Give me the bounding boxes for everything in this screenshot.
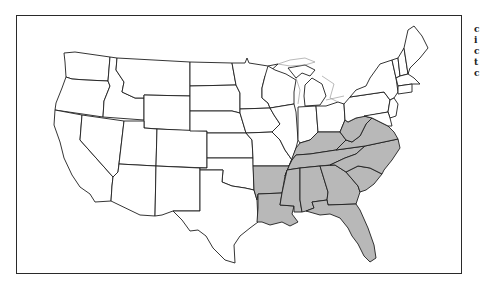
lake-superior xyxy=(278,58,315,66)
state-ohio xyxy=(316,102,345,132)
cut-off-caption: c i c t c xyxy=(474,24,481,79)
caption-line: c xyxy=(474,46,481,57)
state-oregon xyxy=(55,77,110,117)
caption-line: t xyxy=(474,57,481,68)
state-connecticut-rhode-island xyxy=(398,84,412,94)
us-map xyxy=(0,0,481,285)
state-arizona xyxy=(111,164,156,216)
state-wyoming xyxy=(144,95,190,131)
state-nebraska xyxy=(190,111,246,133)
state-florida xyxy=(306,200,376,262)
state-north-dakota xyxy=(190,62,236,86)
state-maine xyxy=(404,26,428,74)
lake-huron-erie xyxy=(322,76,344,102)
state-kansas xyxy=(207,133,253,158)
state-colorado xyxy=(156,129,207,168)
state-new-jersey xyxy=(388,98,398,118)
caption-line: i xyxy=(474,35,481,46)
state-washington xyxy=(64,52,110,81)
caption-line: c xyxy=(474,24,481,35)
state-new-mexico xyxy=(155,166,200,216)
state-montana xyxy=(116,58,190,98)
caption-line: c xyxy=(474,68,481,79)
lake-michigan xyxy=(296,78,300,104)
state-south-dakota xyxy=(190,85,240,113)
